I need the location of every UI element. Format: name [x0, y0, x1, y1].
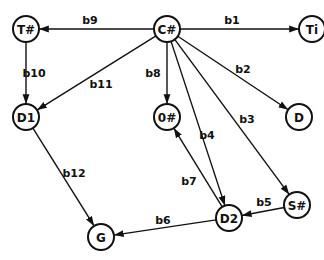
node-t-sharp: T# — [13, 16, 39, 42]
node-s-sharp: S# — [284, 192, 310, 218]
edge-label: b1 — [224, 14, 240, 27]
edge-arrow — [175, 39, 290, 194]
edge-label: b11 — [89, 78, 112, 91]
node-label: D2 — [220, 212, 238, 226]
node-label: S# — [288, 199, 307, 213]
node-label: T# — [17, 23, 35, 37]
directed-graph-diagram: T#C#TiD10#DGD2S# b1b2b3b4b5b6b7b8b9b10b1… — [0, 0, 324, 260]
edge-label: b2 — [235, 63, 251, 76]
edge-label: b5 — [256, 196, 272, 209]
node-g: G — [88, 224, 114, 250]
node-label: D1 — [17, 111, 35, 125]
edge-label: b3 — [239, 113, 255, 126]
node-d1: D1 — [13, 104, 39, 130]
node-label: D — [294, 111, 304, 125]
edge-b2 — [178, 36, 288, 110]
edge-b3 — [175, 39, 290, 194]
edge-b5 — [242, 207, 284, 215]
edge-arrow — [242, 207, 284, 215]
node-c-sharp: C# — [154, 16, 180, 42]
node-label: C# — [158, 23, 177, 37]
edge-arrow — [37, 36, 156, 110]
node-d2: D2 — [216, 205, 242, 231]
node-label: 0# — [158, 111, 176, 125]
node-o-sharp: 0# — [154, 104, 180, 130]
edge-b7 — [174, 128, 222, 207]
edge-label: b4 — [199, 129, 215, 142]
node-label: Ti — [306, 23, 318, 37]
edge-label: b12 — [62, 167, 85, 180]
node-d: D — [286, 104, 312, 130]
edge-label: b8 — [145, 67, 161, 80]
edge-label: b10 — [22, 67, 46, 80]
edge-arrow — [178, 36, 288, 110]
edge-b11 — [37, 36, 156, 110]
edge-arrow — [174, 128, 222, 207]
node-ti: Ti — [299, 16, 324, 42]
edge-label: b6 — [155, 214, 171, 227]
node-label: G — [96, 231, 106, 245]
edge-label: b7 — [181, 175, 197, 188]
edge-label: b9 — [82, 14, 98, 27]
